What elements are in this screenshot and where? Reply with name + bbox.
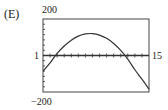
parabola-curve xyxy=(43,34,149,90)
graph-window xyxy=(0,0,168,110)
